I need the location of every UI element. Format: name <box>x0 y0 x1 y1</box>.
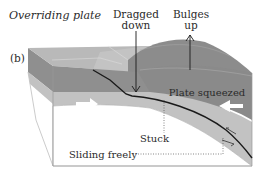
dragged-down-label-line2: down <box>122 19 151 31</box>
bulges-up-label-line2: up <box>184 19 198 31</box>
overriding-plate-label: Overriding plate <box>9 9 101 22</box>
subduction-diagram: Overriding plate (b) Dragged down Bulges… <box>0 0 266 179</box>
stuck-label: Stuck <box>140 133 170 144</box>
sliding-freely-label: Sliding freely <box>69 149 137 160</box>
panel-label: (b) <box>10 52 25 64</box>
plate-squeezed-label: Plate squeezed <box>169 87 246 98</box>
